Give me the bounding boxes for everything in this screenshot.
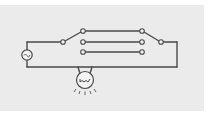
left-contact-3 [81, 50, 86, 55]
ac-source [22, 50, 32, 60]
right-contact-1 [140, 29, 145, 34]
loop-wiring [27, 42, 177, 67]
left-contact-2 [81, 40, 86, 45]
left-switch-blade [65, 32, 81, 41]
right-contact-2 [140, 40, 145, 45]
lamp [74, 67, 96, 95]
circuit-diagram [0, 0, 213, 115]
lamp-lead-left [78, 67, 80, 73]
light-rays-icon [74, 89, 96, 95]
left-contact-1 [81, 29, 86, 34]
left-switch-pivot [61, 40, 66, 45]
light-ray [90, 91, 91, 94]
light-ray [74, 89, 76, 92]
right-switch-blade [144, 32, 159, 41]
light-ray [94, 89, 96, 92]
parallel-wires [85, 31, 140, 52]
left-switch [61, 29, 86, 55]
light-ray [79, 91, 80, 94]
right-switch-pivot [159, 40, 164, 45]
lamp-bulb [77, 72, 94, 89]
right-switch [140, 29, 164, 55]
lamp-lead-right [90, 67, 92, 73]
right-contact-3 [140, 50, 145, 55]
